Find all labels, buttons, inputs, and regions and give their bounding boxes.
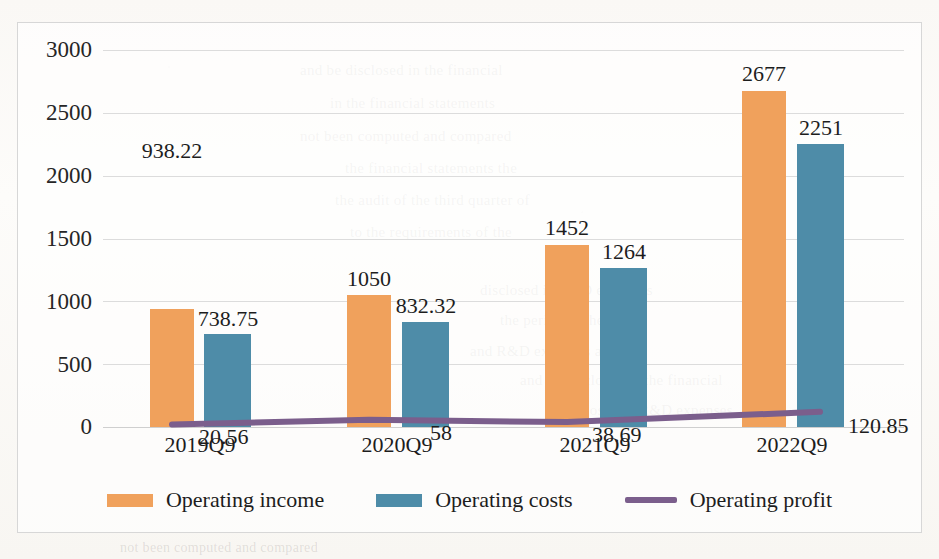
value-label-income-2019q9: 938.22 — [122, 138, 222, 164]
legend-label-operating-profit: Operating profit — [690, 487, 832, 513]
legend-swatch-blue-icon — [376, 494, 422, 507]
legend-line-purple-icon — [625, 497, 677, 503]
value-label-costs-2020q9: 832.32 — [376, 293, 476, 319]
y-axis-tick-2000: 2000 — [22, 163, 92, 189]
plot-area: 938.22 738.75 1050 832.32 1452 1264 2677… — [103, 50, 904, 427]
legend-label-operating-income: Operating income — [166, 487, 324, 513]
value-label-costs-2022q9: 2251 — [771, 115, 871, 141]
background-bleed-text: not been computed and compared — [120, 540, 318, 556]
value-label-costs-2019q9: 738.75 — [178, 306, 278, 332]
legend-swatch-orange-icon — [107, 494, 153, 507]
x-axis-label-2022q9: 2022Q9 — [712, 432, 872, 458]
value-label-income-2021q9: 1452 — [517, 215, 617, 241]
value-label-costs-2021q9: 1264 — [574, 239, 674, 265]
y-axis-tick-1000: 1000 — [22, 289, 92, 315]
y-axis-tick-2500: 2500 — [22, 100, 92, 126]
value-label-income-2020q9: 1050 — [319, 266, 419, 292]
x-axis-label-2020q9: 2020Q9 — [317, 432, 477, 458]
y-axis-tick-0: 0 — [22, 414, 92, 440]
scanned-page-background: and be disclosed in the financial in the… — [0, 0, 939, 559]
background-bleed-text — [180, 6, 184, 22]
chart-legend: Operating income Operating costs Operati… — [17, 482, 922, 518]
y-axis-tick-500: 500 — [22, 352, 92, 378]
legend-item-operating-costs[interactable]: Operating costs — [376, 487, 572, 513]
x-axis-label-2021q9: 2021Q9 — [515, 432, 675, 458]
value-label-income-2022q9: 2677 — [714, 61, 814, 87]
legend-item-operating-profit[interactable]: Operating profit — [625, 487, 832, 513]
y-axis-tick-1500: 1500 — [22, 226, 92, 252]
x-axis-label-2019q9: 2019Q9 — [120, 432, 280, 458]
legend-label-operating-costs: Operating costs — [435, 487, 572, 513]
legend-item-operating-income[interactable]: Operating income — [107, 487, 324, 513]
operating-profit-line — [103, 50, 904, 427]
y-axis-tick-3000: 3000 — [22, 37, 92, 63]
